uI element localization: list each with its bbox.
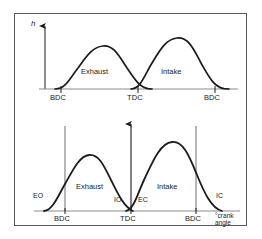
top-intake-curve	[131, 38, 229, 89]
bottom-intake-label: Intake	[157, 183, 177, 191]
bottom-x-axis-label-line1: °crank	[215, 212, 234, 219]
bottom-x-axis-label: °crank angle	[215, 212, 234, 227]
bottom-exhaust-label: Exhaust	[76, 183, 103, 191]
top-tick-label-bdc-left: BDC	[50, 94, 66, 102]
top-panel	[39, 26, 238, 93]
bottom-tick-label-bdc-left: BDC	[54, 215, 70, 223]
bottom-tick-label-tdc: TDC	[120, 215, 136, 223]
bottom-event-label-eo: EO	[33, 192, 43, 199]
top-exhaust-label: Exhaust	[81, 68, 108, 76]
top-y-axis-label: h	[31, 20, 35, 28]
top-tick-label-tdc: TDC	[127, 94, 143, 102]
top-tick-label-bdc-right: BDC	[204, 94, 220, 102]
bottom-x-axis-label-line2: angle	[215, 219, 234, 226]
bottom-panel	[34, 124, 240, 214]
bottom-event-label-io: IO	[114, 196, 121, 203]
valve-timing-figure: h Exhaust Intake BDC TDC BDC Exhaust Int…	[0, 0, 262, 239]
top-intake-label: Intake	[161, 68, 181, 76]
bottom-event-label-ec: EC	[138, 196, 148, 203]
diagram-canvas	[0, 0, 262, 239]
bottom-tick-label-bdc-right: BDC	[185, 215, 201, 223]
bottom-event-label-ic: IC	[216, 192, 223, 199]
